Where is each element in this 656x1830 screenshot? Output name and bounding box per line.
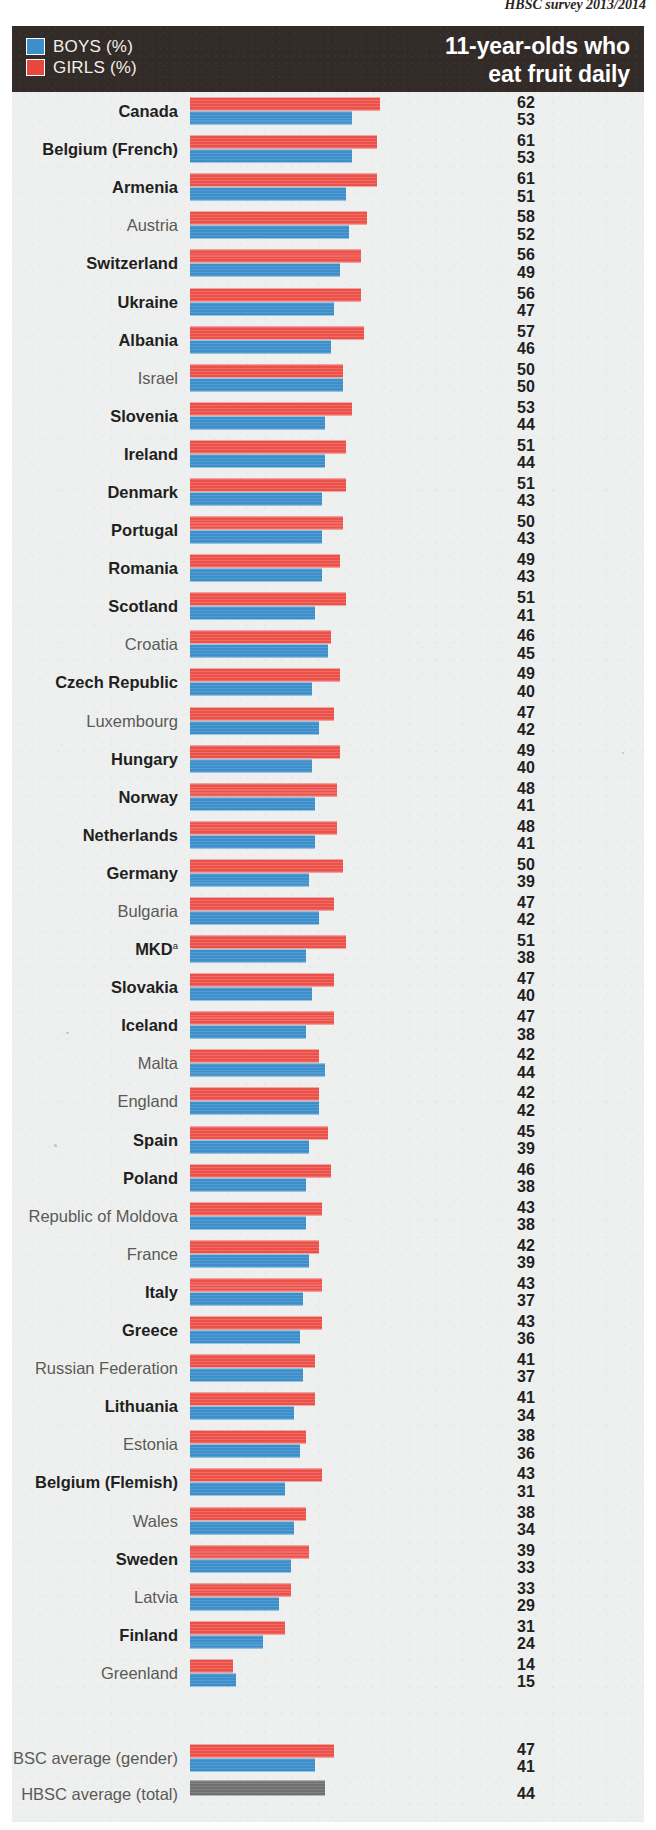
section-spacer xyxy=(12,1692,644,1738)
bar-boys xyxy=(190,1445,300,1458)
country-label: Republic of Moldova xyxy=(29,1208,179,1225)
value-boys: 43 xyxy=(517,530,557,547)
legend-item-boys: BOYS (%) xyxy=(26,36,137,57)
value-girls: 51 xyxy=(517,475,557,492)
table-row: Lithuania4134 xyxy=(12,1387,644,1425)
value-girls: 43 xyxy=(517,1275,557,1292)
value-girls: 50 xyxy=(517,360,557,377)
value-girls: 58 xyxy=(517,208,557,225)
value-girls: 49 xyxy=(517,665,557,682)
table-row: Romania4943 xyxy=(12,549,644,587)
country-label: Ukraine xyxy=(117,293,178,310)
country-label: MKDa xyxy=(135,941,178,958)
value-labels: 6153 xyxy=(517,132,557,167)
value-labels: 4242 xyxy=(517,1084,557,1119)
value-girls: 46 xyxy=(517,1160,557,1177)
value-labels: 3834 xyxy=(517,1503,557,1538)
bar-group xyxy=(190,974,490,1001)
value-labels: 5143 xyxy=(517,475,557,510)
value-boys: 36 xyxy=(517,1444,557,1461)
bar-group xyxy=(190,1583,490,1610)
country-label: Spain xyxy=(133,1131,178,1148)
table-row: HBSC average (total)44 xyxy=(12,1778,644,1810)
value-labels: 3836 xyxy=(517,1427,557,1462)
bar-boys xyxy=(190,492,322,505)
bar-girls xyxy=(190,1202,322,1215)
bar-group xyxy=(190,212,490,239)
bar-boys xyxy=(190,188,346,201)
value-labels: 4244 xyxy=(517,1046,557,1081)
value-labels: 5039 xyxy=(517,856,557,891)
table-row: Bulgaria4742 xyxy=(12,892,644,930)
table-row: England4242 xyxy=(12,1082,644,1120)
table-row: Ireland5144 xyxy=(12,435,644,473)
bar-girls xyxy=(190,669,340,682)
bar-girls xyxy=(190,326,364,339)
value-girls: 48 xyxy=(517,779,557,796)
page-title: 11-year-olds who eat fruit daily xyxy=(445,32,630,88)
value-girls: 43 xyxy=(517,1199,557,1216)
country-label: France xyxy=(127,1246,178,1263)
bar-girls xyxy=(190,707,334,720)
bar-group xyxy=(190,1545,490,1572)
bar-boys xyxy=(190,1521,294,1534)
country-label: Scotland xyxy=(108,598,178,615)
value-boys: 24 xyxy=(517,1635,557,1652)
bar-boys xyxy=(190,1216,306,1229)
chart-page: HBSC survey 2013/2014 BOYS (%) GIRLS (%)… xyxy=(0,0,656,1830)
country-label: Slovenia xyxy=(110,408,178,425)
country-label: Armenia xyxy=(112,179,178,196)
bar-girls xyxy=(190,517,343,530)
bar-girls xyxy=(190,898,334,911)
bar-group xyxy=(190,1393,490,1420)
country-label: Iceland xyxy=(121,1017,178,1034)
legend-swatch-girls-icon xyxy=(26,59,45,76)
table-row: Italy4337 xyxy=(12,1273,644,1311)
bar-boys xyxy=(190,264,340,277)
value-labels: 4940 xyxy=(517,665,557,700)
value-girls: 61 xyxy=(517,170,557,187)
value-boys: 38 xyxy=(517,1178,557,1195)
country-label: Germany xyxy=(106,865,178,882)
table-row: Albania5746 xyxy=(12,321,644,359)
value-total: 44 xyxy=(517,1785,557,1802)
bar-boys xyxy=(190,683,312,696)
country-label: Sweden xyxy=(116,1550,178,1567)
value-boys: 31 xyxy=(517,1482,557,1499)
table-row: Scotland5141 xyxy=(12,587,644,625)
value-girls: 31 xyxy=(517,1618,557,1635)
value-girls: 38 xyxy=(517,1503,557,1520)
bar-group xyxy=(190,669,490,696)
country-label: Wales xyxy=(133,1512,178,1529)
bar-girls xyxy=(190,98,380,111)
legend-label-boys: BOYS (%) xyxy=(53,38,133,55)
value-boys: 40 xyxy=(517,682,557,699)
value-girls: 62 xyxy=(517,94,557,111)
legend-item-girls: GIRLS (%) xyxy=(26,57,137,78)
value-boys: 38 xyxy=(517,1025,557,1042)
value-boys: 41 xyxy=(517,835,557,852)
bar-girls xyxy=(190,593,346,606)
table-row: MKDa5138 xyxy=(12,930,644,968)
bar-boys xyxy=(190,721,319,734)
bar-boys xyxy=(190,1102,319,1115)
bar-group xyxy=(190,1507,490,1534)
value-boys: 37 xyxy=(517,1292,557,1309)
value-labels: 4645 xyxy=(517,627,557,662)
bar-girls xyxy=(190,1088,319,1101)
country-label: Poland xyxy=(123,1169,178,1186)
table-row: Israel5050 xyxy=(12,359,644,397)
bar-group xyxy=(190,555,490,582)
bar-group xyxy=(190,593,490,620)
bar-boys xyxy=(190,1254,309,1267)
table-row: Belgium (French)6153 xyxy=(12,130,644,168)
value-labels: 4336 xyxy=(517,1313,557,1348)
bar-boys xyxy=(190,226,349,239)
table-row: Sweden3933 xyxy=(12,1540,644,1578)
bar-boys xyxy=(190,416,325,429)
country-label: Croatia xyxy=(125,636,178,653)
bar-girls xyxy=(190,631,331,644)
bar-boys xyxy=(190,1026,306,1039)
bar-girls xyxy=(190,1240,319,1253)
bar-girls xyxy=(190,440,346,453)
